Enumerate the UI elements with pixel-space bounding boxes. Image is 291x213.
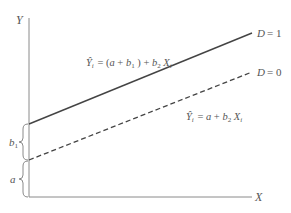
regression-diagram: Y X D= 1 D= 0 Ŷi = (a + b1 ) + b2 Xi Ŷi … xyxy=(0,0,291,213)
y-axis-label: Y xyxy=(16,13,24,27)
x-axis-label: X xyxy=(254,190,263,204)
diagram-canvas: Y X D= 1 D= 0 Ŷi = (a + b1 ) + b2 Xi Ŷi … xyxy=(0,0,291,213)
brace-b1 xyxy=(19,124,28,160)
equation-d1: Ŷi = (a + b1 ) + b2 Xi xyxy=(86,57,172,70)
equation-d0: Ŷi = a + b2 Xi xyxy=(186,111,242,124)
line-label-d1: D= 1 xyxy=(256,27,281,39)
brace-a xyxy=(19,161,28,197)
brace-label-b1: b1 xyxy=(9,136,19,150)
line-label-d0: D= 0 xyxy=(256,66,282,78)
brace-label-a: a xyxy=(10,173,16,185)
